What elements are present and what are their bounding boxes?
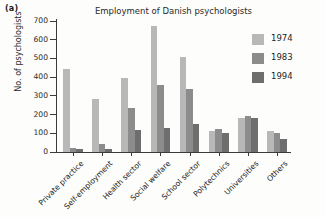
x-tick-6	[248, 152, 249, 156]
legend-label-1983: 1983	[271, 52, 293, 62]
x-tick-7	[277, 152, 278, 156]
x-tick-2	[131, 152, 132, 156]
legend-label-1994: 1994	[271, 71, 293, 81]
legend-label-1974: 1974	[271, 33, 293, 43]
x-tick-0	[73, 152, 74, 156]
x-tick-5	[219, 152, 220, 156]
x-axis-label-private-practice: Private practice	[0, 159, 85, 217]
x-tick-3	[160, 152, 161, 156]
legend-swatch-1974	[252, 34, 264, 45]
legend-swatch-1994	[252, 72, 264, 83]
figure-panel-a: (a) Employment of Danish psychologists N…	[0, 0, 325, 217]
x-tick-1	[102, 152, 103, 156]
x-tick-4	[190, 152, 191, 156]
legend-swatch-1983	[252, 53, 264, 64]
